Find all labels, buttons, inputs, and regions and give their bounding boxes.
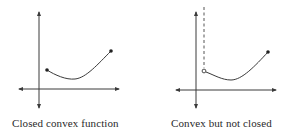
left-closed-endpoint-end <box>109 49 113 53</box>
right-panel-caption: Convex but not closed <box>171 117 272 129</box>
left-panel-caption: Closed convex function <box>12 117 119 129</box>
right-panel-plot <box>176 7 276 108</box>
right-closed-endpoint <box>266 50 270 54</box>
left-panel-plot <box>19 12 119 108</box>
right-open-endpoint <box>202 69 206 73</box>
left-convex-curve <box>47 51 111 79</box>
right-convex-curve <box>206 52 268 80</box>
left-closed-endpoint-start <box>45 68 49 72</box>
